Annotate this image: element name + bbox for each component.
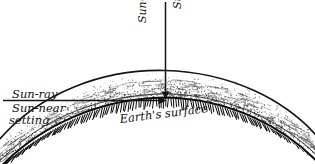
label-sun-ray-horizontal: Sun-ray	[12, 88, 57, 100]
label-sun-near-setting-line2: setting	[9, 114, 49, 126]
label-sun-ray-vertical: Sun-ray	[137, 0, 149, 23]
diagram-svg	[0, 0, 315, 164]
diagram-canvas: Sun-ray Sun-near setting Sun-ray Sun at …	[0, 0, 315, 164]
label-sun-at-zenith: Sun at zenith	[172, 0, 184, 9]
